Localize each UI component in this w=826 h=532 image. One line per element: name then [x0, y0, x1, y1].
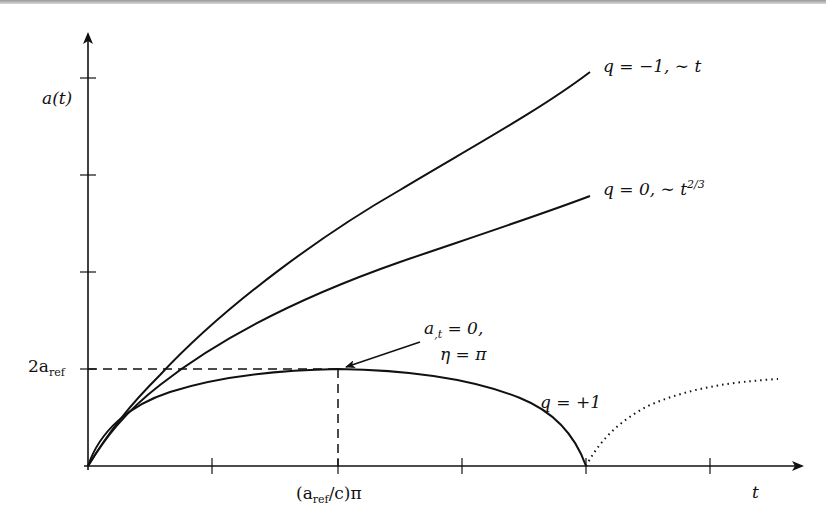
annot-sub: ,t [434, 328, 442, 341]
y-axis-label: a(t) [42, 88, 72, 108]
chart-canvas [0, 0, 826, 532]
q-zero-sup: 2/3 [687, 178, 705, 191]
x-tick-label-peak: (aref/c)π [296, 483, 362, 506]
annotation-arrow [346, 342, 420, 367]
annot-rest: = 0, [442, 318, 483, 338]
curve-q-zero [88, 196, 590, 466]
q-zero-main: q = 0, ∼ t [603, 179, 687, 199]
label-q-minus1: q = −1, ∼ t [603, 56, 701, 76]
annotation-line1: a,t = 0, [424, 318, 483, 341]
label-q-zero: q = 0, ∼ t2/3 [603, 178, 705, 199]
x-tick-sub: ref [313, 493, 329, 506]
curve-q-plus1-continuation [586, 379, 778, 466]
annot-a: a [424, 318, 434, 338]
x-axis-label: t [752, 482, 759, 502]
x-tick-close: /c)π [329, 483, 362, 503]
label-q-plus1: q = +1 [540, 392, 601, 412]
annotation-line2: η = π [440, 344, 486, 364]
x-tick-open: (a [296, 483, 313, 503]
curve-q-minus1 [88, 72, 590, 466]
y-tick-main: 2a [28, 356, 49, 376]
y-tick-sub: ref [49, 366, 65, 379]
y-tick-label-2aref: 2aref [28, 356, 65, 379]
